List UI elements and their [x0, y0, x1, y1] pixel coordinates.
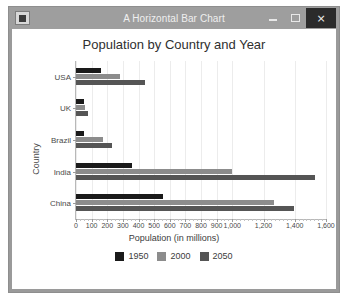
bar-uk-2050 — [76, 111, 88, 116]
bar-group — [76, 194, 326, 212]
x-axis-minor-tick — [287, 219, 288, 221]
x-axis-tick-label: 400 — [133, 222, 145, 229]
legend-swatch-2050 — [200, 252, 209, 261]
y-axis-title: Country — [31, 143, 41, 175]
legend-item-2000[interactable]: 2000 — [157, 251, 190, 261]
x-axis-ticks: 01002003004005006007008009001,0001,2001,… — [76, 219, 326, 233]
y-axis-label-india: India — [54, 167, 71, 176]
x-axis-minor-tick — [236, 219, 237, 221]
x-axis-minor-tick — [221, 219, 222, 221]
x-axis-minor-tick — [99, 219, 100, 221]
x-axis-minor-tick — [275, 219, 276, 221]
x-axis-minor-tick — [131, 219, 132, 221]
x-axis-minor-tick — [166, 219, 167, 221]
bar-group — [76, 99, 326, 117]
x-axis-minor-tick — [111, 219, 112, 221]
title-bar[interactable]: A Horizontal Bar Chart × — [9, 7, 339, 29]
x-axis-title: Population (in millions) — [12, 233, 336, 243]
x-axis-minor-tick — [189, 219, 190, 221]
bar-uk-1950 — [76, 99, 84, 104]
x-axis-minor-tick — [209, 219, 210, 221]
y-axis-tick — [73, 108, 76, 109]
maximize-button[interactable] — [284, 9, 306, 27]
x-axis-minor-tick — [310, 219, 311, 221]
x-axis-minor-tick — [244, 219, 245, 221]
x-axis-minor-tick — [119, 219, 120, 221]
bar-group — [76, 163, 326, 181]
close-button[interactable]: × — [306, 8, 336, 28]
x-axis-minor-tick — [127, 219, 128, 221]
bar-usa-2050 — [76, 80, 145, 85]
chart-title: Population by Country and Year — [12, 37, 336, 52]
x-axis-tick-label: 500 — [148, 222, 160, 229]
x-axis-minor-tick — [150, 219, 151, 221]
bar-india-1950 — [76, 163, 132, 168]
app-icon — [15, 11, 30, 25]
bar-brazil-2050 — [76, 143, 112, 148]
legend-swatch-2000 — [157, 252, 166, 261]
x-axis-tick-label: 700 — [180, 222, 192, 229]
x-axis-minor-tick — [96, 219, 97, 221]
x-axis-minor-tick — [103, 219, 104, 221]
x-axis-minor-tick — [228, 219, 229, 221]
x-axis-minor-tick — [88, 219, 89, 221]
bar-usa-1950 — [76, 68, 101, 73]
x-axis-minor-tick — [240, 219, 241, 221]
x-axis-minor-tick — [142, 219, 143, 221]
x-axis-tick-label: 100 — [86, 222, 98, 229]
legend-swatch-1950 — [115, 252, 124, 261]
chart-legend: 195020002050 — [12, 251, 336, 261]
x-axis-tick-label: 600 — [164, 222, 176, 229]
x-axis-tick-label: 900 — [211, 222, 223, 229]
x-axis-minor-tick — [260, 219, 261, 221]
x-axis-minor-tick — [318, 219, 319, 221]
x-axis-minor-tick — [271, 219, 272, 221]
y-axis-label-usa: USA — [55, 72, 71, 81]
window-controls: × — [262, 7, 337, 29]
legend-label-2000: 2000 — [170, 251, 190, 261]
y-axis-tick — [73, 172, 76, 173]
x-axis-tick-label: 800 — [195, 222, 207, 229]
bar-uk-2000 — [76, 105, 85, 110]
x-axis-tick-label: 200 — [101, 222, 113, 229]
x-axis-minor-tick — [178, 219, 179, 221]
x-axis-minor-tick — [181, 219, 182, 221]
plot-area: USAUKBrazilIndiaChina 010020030040050060… — [75, 61, 326, 220]
x-axis-minor-tick — [205, 219, 206, 221]
x-axis-minor-tick — [146, 219, 147, 221]
x-axis-minor-tick — [314, 219, 315, 221]
x-axis-minor-tick — [135, 219, 136, 221]
bar-india-2050 — [76, 175, 315, 180]
legend-label-1950: 1950 — [128, 251, 148, 261]
x-axis-minor-tick — [158, 219, 159, 221]
legend-item-2050[interactable]: 2050 — [200, 251, 233, 261]
y-axis-label-china: China — [50, 199, 71, 208]
x-axis-minor-tick — [256, 219, 257, 221]
grid-line — [326, 61, 327, 219]
bar-china-2050 — [76, 206, 294, 211]
bar-usa-2000 — [76, 74, 120, 79]
x-axis-tick-label: 1,200 — [255, 222, 273, 229]
screenshot-root: A Horizontal Bar Chart × Population by C… — [0, 0, 348, 299]
x-axis-minor-tick — [193, 219, 194, 221]
bar-china-2000 — [76, 200, 274, 205]
x-axis-minor-tick — [248, 219, 249, 221]
y-axis-tick — [73, 77, 76, 78]
chart-canvas: Population by Country and Year Country U… — [12, 29, 336, 289]
x-axis-minor-tick — [322, 219, 323, 221]
x-axis-minor-tick — [197, 219, 198, 221]
minimize-icon — [269, 19, 277, 21]
legend-label-2050: 2050 — [213, 251, 233, 261]
bar-group — [76, 68, 326, 86]
bar-brazil-1950 — [76, 131, 84, 136]
x-axis-minor-tick — [162, 219, 163, 221]
x-axis-tick-label: 0 — [74, 222, 78, 229]
x-axis-minor-tick — [291, 219, 292, 221]
legend-item-1950[interactable]: 1950 — [115, 251, 148, 261]
x-axis-minor-tick — [213, 219, 214, 221]
x-axis-minor-tick — [267, 219, 268, 221]
x-axis-minor-tick — [252, 219, 253, 221]
x-axis-minor-tick — [174, 219, 175, 221]
x-axis-tick-label: 1,400 — [286, 222, 304, 229]
minimize-button[interactable] — [262, 9, 284, 27]
